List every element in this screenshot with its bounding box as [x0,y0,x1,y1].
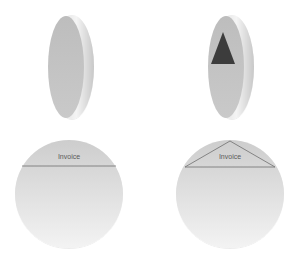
right-circle: Invoice [176,140,284,248]
left-circle-label: Invoice [58,153,80,160]
left-pill-face [48,16,84,118]
diagram-canvas: Invoice Invoice [0,0,297,263]
left-circle: Invoice [15,140,123,248]
right-pill [208,15,254,119]
right-pill-face [208,16,244,118]
left-pill [48,15,94,119]
right-circle-label: Invoice [219,153,241,160]
